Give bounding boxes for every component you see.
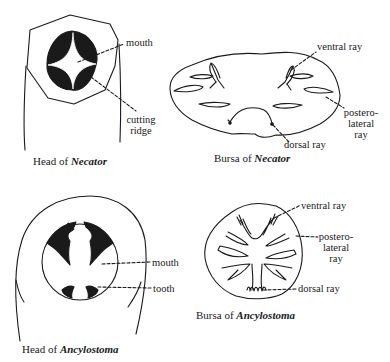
hookworm-diagram: mouth cutting ridge Head of Necator vent… xyxy=(0,0,390,362)
necator-head-drawing xyxy=(24,15,136,150)
caption-bursa-ancylostoma: Bursa of Ancylostoma xyxy=(196,309,295,321)
label-ancylostoma-mouth: mouth xyxy=(152,257,179,268)
necator-bursa-drawing xyxy=(170,52,344,143)
label-ancylostoma-lateral: lateral xyxy=(314,242,358,253)
label-necator-ventral-ray: ventral ray xyxy=(317,41,362,52)
label-necator-ridge: ridge xyxy=(122,125,160,136)
label-necator-mouth: mouth xyxy=(126,37,153,48)
caption-head-necator: Head of Necator xyxy=(33,155,107,167)
label-necator-cutting: cutting xyxy=(122,114,160,125)
genus-necator-bursa: Necator xyxy=(254,152,290,164)
label-ancylostoma-postero: postero- xyxy=(314,231,358,242)
caption-bursa-necator: Bursa of Necator xyxy=(214,152,290,164)
caption-head-ancylostoma: Head of Ancylostoma xyxy=(22,343,119,355)
genus-necator: Necator xyxy=(71,155,107,167)
ancylostoma-head-drawing xyxy=(16,196,152,341)
label-ancylostoma-ray: ray xyxy=(314,253,358,264)
label-ancylostoma-tooth: tooth xyxy=(153,283,175,294)
label-necator-dorsal-ray: dorsal ray xyxy=(284,139,326,150)
genus-ancylostoma: Ancylostoma xyxy=(60,343,119,355)
diagram-drawing xyxy=(0,0,390,362)
genus-ancylostoma-bursa: Ancylostoma xyxy=(236,309,295,321)
label-necator-ray: ray xyxy=(339,129,383,140)
label-necator-postero: postero- xyxy=(339,107,383,118)
label-ancylostoma-dorsal-ray: dorsal ray xyxy=(298,283,340,294)
label-necator-lateral: lateral xyxy=(339,118,383,129)
label-ancylostoma-ventral-ray: ventral ray xyxy=(301,200,346,211)
